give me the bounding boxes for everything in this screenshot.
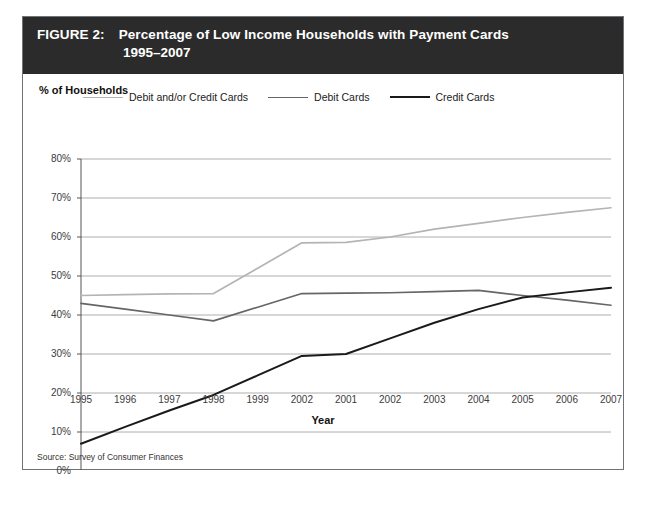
line-chart-svg (23, 74, 623, 470)
x-tick-label: 2007 (588, 394, 634, 405)
y-tick-label: 30% (35, 348, 71, 359)
y-tick-label: 70% (35, 192, 71, 203)
x-tick-label: 2004 (456, 394, 502, 405)
x-tick-label: 1995 (58, 394, 104, 405)
figure-header-row: FIGURE 2: Percentage of Low Income House… (37, 26, 609, 43)
x-tick-label: 2005 (500, 394, 546, 405)
x-tick-label: 1996 (102, 394, 148, 405)
x-tick-label: 2006 (544, 394, 590, 405)
x-tick-label: 2002 (279, 394, 325, 405)
figure-title-line-1: Percentage of Low Income Households with… (119, 26, 509, 43)
y-tick-label: 10% (35, 426, 71, 437)
x-tick-label: 2001 (323, 394, 369, 405)
x-tick-label: 2003 (411, 394, 457, 405)
source-note: Source: Survey of Consumer Finances (37, 452, 183, 462)
series-line (81, 208, 611, 296)
series-line (81, 290, 611, 320)
x-tick-label: 2002 (367, 394, 413, 405)
figure-title-line-2: 1995–2007 (123, 44, 609, 61)
figure-label: FIGURE 2: (37, 26, 105, 43)
x-tick-label: 1997 (146, 394, 192, 405)
y-tick-label: 0% (35, 465, 71, 476)
x-tick-label: 1999 (235, 394, 281, 405)
y-tick-label: 50% (35, 270, 71, 281)
figure-header: FIGURE 2: Percentage of Low Income House… (23, 17, 623, 74)
y-tick-label: 80% (35, 153, 71, 164)
x-tick-label: 1998 (191, 394, 237, 405)
figure-container: FIGURE 2: Percentage of Low Income House… (22, 16, 624, 470)
x-axis-title: Year (23, 414, 623, 426)
plot-area: 0%10%20%30%40%50%60%70%80%19951996199719… (23, 74, 623, 470)
y-tick-label: 60% (35, 231, 71, 242)
y-tick-label: 40% (35, 309, 71, 320)
chart-body: % of Households Debit and/or Credit Card… (23, 74, 623, 470)
